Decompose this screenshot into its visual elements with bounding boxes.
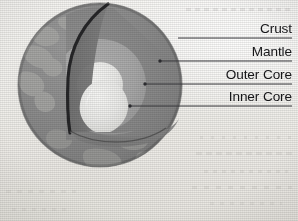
label-outer-core: Outer Core: [226, 68, 292, 82]
label-inner-core: Inner Core: [229, 90, 292, 104]
label-crust: Crust: [260, 22, 292, 36]
label-mantle: Mantle: [252, 45, 292, 59]
leader-dot-mantle: [158, 59, 161, 62]
leader-dot-outer-core: [143, 82, 146, 85]
earth-structure-figure: Crust Mantle Outer Core Inner Core: [0, 0, 298, 221]
earth-cutaway-illustration: [0, 0, 298, 221]
leader-dot-inner-core: [128, 104, 131, 107]
